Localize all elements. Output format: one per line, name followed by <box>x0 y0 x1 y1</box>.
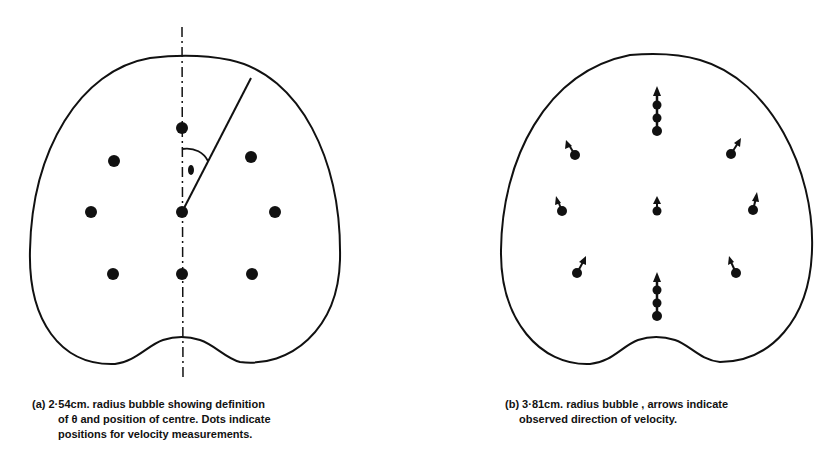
theta-symbol <box>188 165 194 175</box>
arrow-mid-left <box>555 196 567 216</box>
theta-arc <box>182 149 208 161</box>
caption-a-line-1: (a) 2·54cm. radius bubble showing defini… <box>32 397 271 412</box>
arrow-mid-right <box>748 192 759 215</box>
arrow-top-stack <box>652 86 662 136</box>
caption-b-line-2: observed direction of velocity. <box>505 412 728 427</box>
caption-a-line-3: positions for velocity measurements. <box>32 427 271 442</box>
velocity-arrows <box>555 86 759 321</box>
caption-panel-b: (b) 3·81cm. radius bubble , arrows indic… <box>505 397 728 427</box>
arrow-upper-left <box>565 140 580 160</box>
arrow-upper-right <box>726 138 741 159</box>
caption-panel-a: (a) 2·54cm. radius bubble showing defini… <box>32 397 271 442</box>
arrow-lower-right <box>728 256 741 278</box>
arrow-bottom-stack <box>652 272 662 321</box>
panel-a-diagram <box>30 27 340 381</box>
radius-line <box>182 78 251 212</box>
caption-b-line-1: (b) 3·81cm. radius bubble , arrows indic… <box>505 397 728 412</box>
arrow-lower-left <box>572 256 586 278</box>
panel-b-diagram <box>501 54 812 364</box>
symmetry-axis-line <box>182 27 183 381</box>
caption-a-line-2: of θ and position of centre. Dots indica… <box>32 412 271 427</box>
arrow-center <box>653 196 662 216</box>
